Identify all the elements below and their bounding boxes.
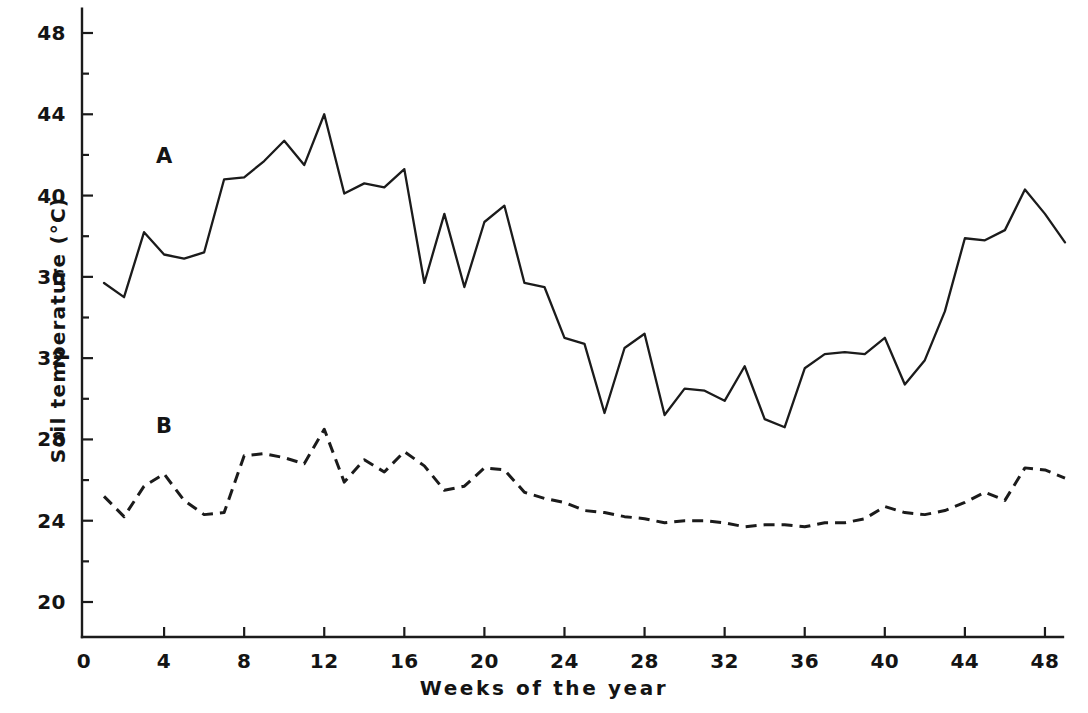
y-tick-label-20: 20 xyxy=(14,590,66,614)
x-tick-label-44: 44 xyxy=(950,649,979,673)
x-tick-label-20: 20 xyxy=(470,649,499,673)
x-tick-label-32: 32 xyxy=(710,649,739,673)
y-tick-label-44: 44 xyxy=(14,102,66,126)
y-tick-label-24: 24 xyxy=(14,509,66,533)
x-tick-label-40: 40 xyxy=(870,649,899,673)
series-b-label: B xyxy=(156,414,173,438)
series-line-A xyxy=(104,114,1065,427)
x-axis-title: Weeks of the year xyxy=(0,676,1088,700)
x-tick-label-16: 16 xyxy=(390,649,419,673)
x-tick-label-4: 4 xyxy=(157,649,171,673)
chart-plot-area xyxy=(0,0,1088,713)
x-tick-label-12: 12 xyxy=(310,649,339,673)
series-group xyxy=(104,114,1065,527)
x-tick-label-36: 36 xyxy=(790,649,819,673)
x-tick-label-8: 8 xyxy=(237,649,251,673)
series-a-label: A xyxy=(156,144,173,168)
y-axis-title: Soil temperature (°C) xyxy=(46,165,70,495)
series-line-B xyxy=(104,429,1065,527)
axis-group xyxy=(82,9,1063,637)
x-tick-label-28: 28 xyxy=(630,649,659,673)
y-tick-label-48: 48 xyxy=(14,21,66,45)
x-tick-label-24: 24 xyxy=(550,649,579,673)
x-tick-label-48: 48 xyxy=(1031,649,1060,673)
soil-temperature-chart: 2024283236404448 04812162024283236404448… xyxy=(0,0,1088,713)
x-tick-label-0: 0 xyxy=(77,649,91,673)
